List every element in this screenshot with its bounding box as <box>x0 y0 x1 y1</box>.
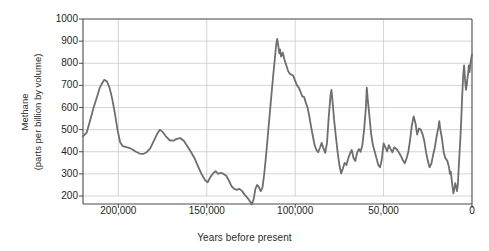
x-tick-label: 50,000 <box>368 205 399 216</box>
plot-area <box>0 0 489 251</box>
axis-lines <box>83 19 472 204</box>
methane-data-line <box>83 39 472 205</box>
x-tick-label: 0 <box>469 205 475 216</box>
x-tick-label: 150,000 <box>189 205 225 216</box>
x-tick-label: 100,000 <box>277 205 313 216</box>
methane-chart: Methane (parts per billion by volume) 20… <box>0 0 489 251</box>
x-tick-label: 200,000 <box>100 205 136 216</box>
